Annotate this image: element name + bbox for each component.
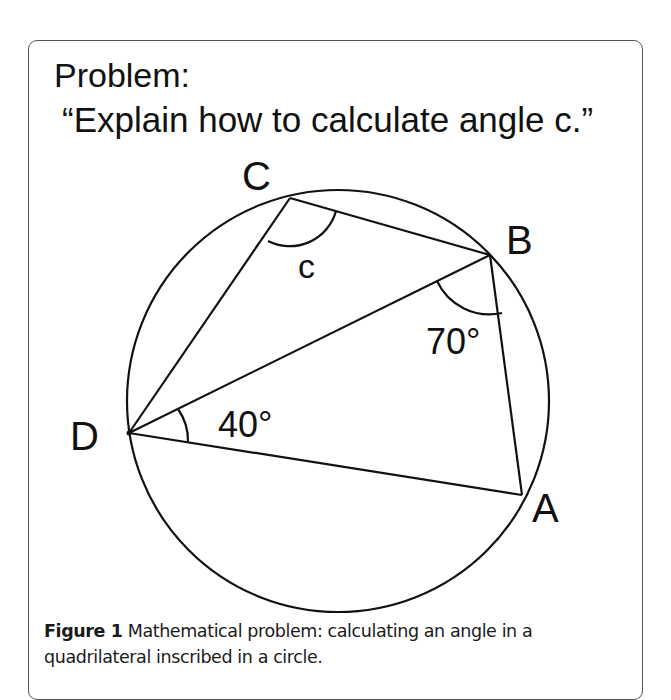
caption-label: Figure 1 bbox=[44, 621, 123, 641]
point-D-dot bbox=[127, 431, 132, 436]
side-AD bbox=[129, 433, 522, 495]
angle-c-label: c bbox=[298, 247, 315, 285]
angle-B-label: 70° bbox=[426, 321, 480, 362]
vertex-label-D: D bbox=[70, 414, 99, 458]
side-CB bbox=[290, 198, 490, 255]
angle-B-arc bbox=[437, 281, 502, 314]
figure-caption: Figure 1 Mathematical problem: calculati… bbox=[44, 618, 634, 670]
vertex-label-C: C bbox=[242, 154, 271, 198]
angle-D-label: 40° bbox=[218, 404, 272, 445]
vertex-label-A: A bbox=[532, 486, 559, 530]
vertex-label-B: B bbox=[506, 218, 533, 262]
angle-D-arc bbox=[178, 409, 188, 442]
